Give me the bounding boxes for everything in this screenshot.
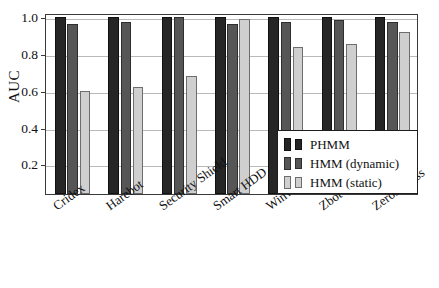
legend-item-hmm-dynamic: HMM (dynamic) xyxy=(284,154,412,173)
legend-item-hmm-static: HMM (static) xyxy=(284,173,412,192)
legend-swatch-hmm-dynamic xyxy=(284,157,304,170)
chart-legend: PHMM HMM (dynamic) HMM (static) xyxy=(277,130,418,194)
bar-chart-figure: AUC 0.20.40.60.81.0 CridexHarebotSecurit… xyxy=(0,0,439,288)
x-label-harebot: Harebot xyxy=(103,176,146,214)
legend-swatch-phmm xyxy=(284,138,304,151)
legend-label-phmm: PHMM xyxy=(310,138,350,151)
legend-label-hmm-static: HMM (static) xyxy=(310,176,382,189)
legend-label-hmm-dynamic: HMM (dynamic) xyxy=(310,157,399,170)
x-label-cridex: Cridex xyxy=(50,180,88,214)
legend-swatch-hmm-static xyxy=(284,176,304,189)
legend-item-phmm: PHMM xyxy=(284,135,412,154)
